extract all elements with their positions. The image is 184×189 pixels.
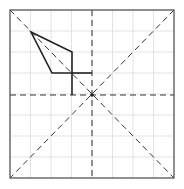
folding-diagram — [0, 0, 184, 189]
diagram-canvas — [0, 0, 184, 189]
kite-outline — [31, 32, 72, 73]
center-point — [90, 93, 94, 97]
